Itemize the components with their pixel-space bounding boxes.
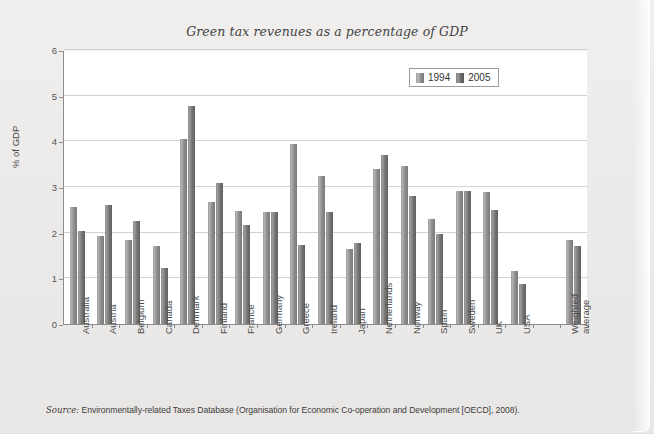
x-axis-label: Austria bbox=[107, 304, 118, 334]
bar-1994 bbox=[180, 139, 187, 324]
bar-group bbox=[125, 51, 141, 324]
bar-2005 bbox=[491, 210, 498, 324]
legend-item-2005: 2005 bbox=[456, 72, 490, 83]
x-axis-tick-mark bbox=[147, 324, 148, 328]
bar-series-container bbox=[64, 51, 587, 324]
bar-1994 bbox=[235, 211, 242, 324]
y-axis-tick-label: 3 bbox=[41, 182, 57, 193]
x-axis-tick-mark bbox=[285, 324, 286, 328]
x-axis-label: USA bbox=[521, 314, 532, 334]
x-axis-label: Australia bbox=[80, 297, 91, 334]
x-axis-label: Ireland bbox=[328, 305, 339, 334]
x-axis-label: Greece bbox=[300, 303, 311, 334]
legend-label-1994: 1994 bbox=[428, 72, 450, 83]
bar-1994 bbox=[401, 166, 408, 324]
y-axis-tick-mark bbox=[59, 325, 63, 326]
y-axis-tick-label: 1 bbox=[41, 273, 57, 284]
x-axis-label: Germany bbox=[273, 295, 284, 334]
y-axis-tick-mark bbox=[59, 51, 63, 52]
x-axis-label: Weighted bbox=[569, 294, 580, 334]
y-axis-tick-mark bbox=[59, 97, 63, 98]
x-axis-tick-mark bbox=[478, 324, 479, 328]
x-axis-tick-mark bbox=[505, 324, 506, 328]
x-axis-tick-mark bbox=[312, 324, 313, 328]
bar-group bbox=[208, 51, 224, 324]
bar-group bbox=[180, 51, 196, 324]
x-axis-tick-mark bbox=[229, 324, 230, 328]
bar-group bbox=[235, 51, 251, 324]
y-axis-tick-label: 2 bbox=[41, 228, 57, 239]
plot-region bbox=[63, 51, 587, 325]
bar-1994 bbox=[153, 246, 160, 324]
bar-1994 bbox=[511, 271, 518, 324]
x-axis-label: average bbox=[580, 300, 591, 334]
chart-legend: 1994 2005 bbox=[409, 68, 499, 87]
gridline bbox=[64, 49, 587, 50]
legend-swatch-1994-icon bbox=[416, 73, 424, 83]
x-axis-label: UK bbox=[493, 321, 504, 334]
x-axis-tick-mark bbox=[367, 324, 368, 328]
panel-bottom-edge bbox=[0, 433, 654, 442]
bar-1994 bbox=[97, 236, 104, 324]
x-axis-tick-mark bbox=[423, 324, 424, 328]
bar-1994 bbox=[263, 212, 270, 324]
bar-1994 bbox=[373, 169, 380, 324]
x-axis-tick-mark bbox=[119, 324, 120, 328]
y-axis-tick-mark bbox=[59, 234, 63, 235]
legend-label-2005: 2005 bbox=[468, 72, 490, 83]
x-axis-tick-mark bbox=[174, 324, 175, 328]
x-axis-label: Japan bbox=[356, 308, 367, 334]
bar-2005 bbox=[188, 106, 195, 324]
y-axis-tick-mark bbox=[59, 142, 63, 143]
bar-group bbox=[456, 51, 472, 324]
bar-group bbox=[153, 51, 169, 324]
bar-group bbox=[401, 51, 417, 324]
y-axis-tick-label: 0 bbox=[41, 319, 57, 330]
x-axis-label: Canada bbox=[163, 301, 174, 334]
legend-swatch-2005-icon bbox=[456, 73, 464, 83]
x-axis-label: Spain bbox=[438, 310, 449, 334]
source-label: Source: bbox=[46, 405, 79, 415]
x-axis-tick-mark bbox=[395, 324, 396, 328]
y-axis-tick-mark bbox=[59, 279, 63, 280]
figure-panel: Green tax revenues as a percentage of GD… bbox=[0, 0, 654, 442]
bar-1994 bbox=[456, 191, 463, 324]
bar-group bbox=[290, 51, 306, 324]
legend-item-1994: 1994 bbox=[416, 72, 450, 83]
x-axis-tick-mark bbox=[202, 324, 203, 328]
x-axis-tick-mark bbox=[340, 324, 341, 328]
bar-group bbox=[263, 51, 279, 324]
y-axis-title: % of GDP bbox=[10, 126, 21, 168]
bar-group bbox=[511, 51, 527, 324]
x-axis-labels: AustraliaAustriaBelgiumCanadaDenmarkFinl… bbox=[63, 330, 587, 410]
bar-group bbox=[97, 51, 113, 324]
x-axis-tick-mark bbox=[450, 324, 451, 328]
bar-group bbox=[428, 51, 444, 324]
bar-group bbox=[539, 51, 555, 324]
x-axis-label: Netherlands bbox=[383, 283, 394, 334]
bar-group bbox=[566, 51, 582, 324]
x-axis-label: Finland bbox=[218, 303, 229, 334]
x-axis-label: Belgium bbox=[135, 300, 146, 334]
x-axis-label: Sweden bbox=[466, 300, 477, 334]
bar-1994 bbox=[346, 249, 353, 324]
x-axis-tick-mark bbox=[257, 324, 258, 328]
bar-group bbox=[346, 51, 362, 324]
x-axis-tick-mark bbox=[92, 324, 93, 328]
x-axis-label: Denmark bbox=[190, 295, 201, 334]
source-note: Source: Environmentally-related Taxes Da… bbox=[46, 405, 520, 415]
x-axis-tick-mark bbox=[560, 324, 561, 328]
bar-1994 bbox=[290, 144, 297, 324]
bar-1994 bbox=[428, 219, 435, 324]
bar-1994 bbox=[70, 207, 77, 324]
bar-group bbox=[318, 51, 334, 324]
y-axis-tick-mark bbox=[59, 188, 63, 189]
bar-1994 bbox=[208, 202, 215, 324]
x-axis-label: France bbox=[245, 304, 256, 334]
source-text: Environmentally-related Taxes Database (… bbox=[79, 405, 520, 415]
bar-1994 bbox=[125, 240, 132, 324]
x-axis-label: Norway bbox=[411, 302, 422, 334]
chart-area: % of GDP 0123456 AustraliaAustriaBelgium… bbox=[0, 0, 654, 442]
y-axis-tick-label: 5 bbox=[41, 91, 57, 102]
y-axis-tick-label: 6 bbox=[41, 45, 57, 56]
